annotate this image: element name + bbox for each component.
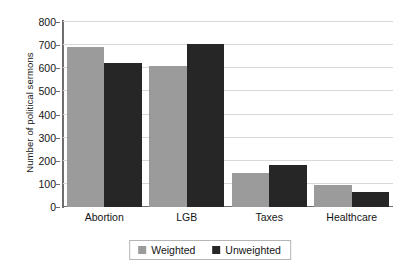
bar (232, 173, 270, 207)
y-axis-tick-mark (56, 91, 60, 92)
y-axis-tick-mark (56, 161, 60, 162)
y-axis-tick-mark (56, 22, 60, 23)
y-axis-tick-mark (56, 115, 60, 116)
bar-chart: Number of political sermons 010020030040… (0, 0, 420, 277)
x-axis-tick-label: Healthcare (326, 211, 377, 223)
bar (104, 63, 142, 207)
y-axis-tick-label: 100 (6, 178, 56, 190)
legend-item: Weighted (138, 244, 195, 256)
y-axis-tick-mark (56, 68, 60, 69)
y-axis-tick-label: 0 (6, 201, 56, 213)
x-axis-category-labels: AbortionLGBTaxesHealthcare (63, 211, 393, 229)
plot-area (63, 22, 393, 207)
y-axis-tick-labels: 0100200300400500600700800 (0, 22, 56, 207)
y-axis-tick-label: 400 (6, 109, 56, 121)
legend-label: Weighted (151, 244, 195, 256)
bar (67, 47, 105, 207)
bar (314, 185, 352, 207)
y-axis-tick-mark (56, 138, 60, 139)
bar (149, 66, 187, 207)
chart-legend: WeightedUnweighted (129, 240, 291, 260)
y-axis-tick-label: 600 (6, 62, 56, 74)
bar (269, 165, 307, 207)
y-axis-tick-label: 500 (6, 85, 56, 97)
legend-label: Unweighted (225, 244, 280, 256)
y-axis-tick-mark (56, 45, 60, 46)
bar-series-group (63, 22, 393, 207)
legend-item: Unweighted (212, 244, 280, 256)
legend-swatch-icon (212, 246, 220, 254)
y-axis-tick-label: 700 (6, 39, 56, 51)
x-axis-tick-label: Taxes (256, 211, 283, 223)
y-axis-tick-label: 200 (6, 155, 56, 167)
bar (352, 192, 390, 207)
y-axis-tick-mark (56, 184, 60, 185)
legend-swatch-icon (138, 246, 146, 254)
x-axis-tick-label: Abortion (85, 211, 124, 223)
y-axis-tick-mark (56, 207, 60, 208)
x-axis-tick-label: LGB (176, 211, 197, 223)
y-axis-tick-label: 800 (6, 16, 56, 28)
y-axis-tick-label: 300 (6, 132, 56, 144)
bar (187, 44, 225, 207)
